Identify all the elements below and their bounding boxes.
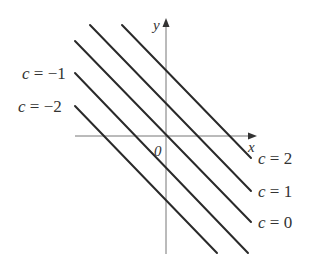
line-c-2 (122, 25, 251, 158)
label-c-minus-1-value: = −1 (30, 64, 66, 83)
line-c-minus-2 (75, 106, 217, 253)
label-c-minus-2: c = −2 (18, 97, 62, 116)
x-axis-label: x (247, 139, 255, 155)
label-c-1: c = 1 (258, 182, 292, 201)
y-axis-arrow-icon (163, 18, 170, 27)
origin-label: 0 (154, 143, 162, 159)
label-c-0: c = 0 (258, 213, 292, 232)
label-c-minus-2-value: = −2 (26, 97, 62, 116)
level-lines (75, 25, 251, 253)
label-c-minus-1: c = −1 (22, 64, 66, 83)
line-c-1 (90, 25, 251, 191)
label-c-0-value: = 0 (266, 213, 293, 232)
label-c-1-value: = 1 (266, 182, 293, 201)
y-axis-label: y (151, 17, 160, 33)
label-c-2: c = 2 (258, 149, 292, 168)
level-curves-diagram: y x 0 c = 2 c = 1 c = 0 c = −1 c = −2 (0, 0, 316, 263)
label-c-2-value: = 2 (266, 149, 293, 168)
